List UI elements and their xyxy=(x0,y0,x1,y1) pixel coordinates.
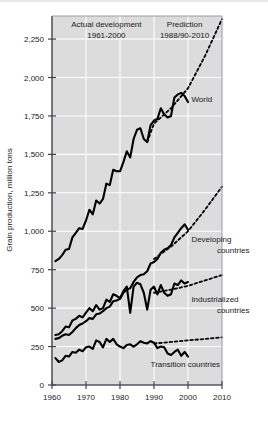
x-tick-label: 1970 xyxy=(77,393,95,402)
grain-production-chart: 02505007501,0001,2501,5001,7502,0002,250… xyxy=(0,0,268,422)
chart-canvas: 02505007501,0001,2501,5001,7502,0002,250… xyxy=(0,0,268,422)
y-tick-label: 1,000 xyxy=(24,227,45,236)
y-tick-label: 2,250 xyxy=(24,35,45,44)
series-label: World xyxy=(191,95,212,104)
y-tick-label: 0 xyxy=(40,381,45,390)
series-label: countries xyxy=(217,246,249,255)
actual-development-line1: Actual development xyxy=(71,20,142,29)
prediction-line1: Prediction xyxy=(167,20,203,29)
prediction-line2: 1988/90-2010 xyxy=(160,31,210,40)
chart-figure: 02505007501,0001,2501,5001,7502,0002,250… xyxy=(0,0,268,422)
y-tick-label: 1,250 xyxy=(24,189,45,198)
y-tick-label: 2,000 xyxy=(24,74,45,83)
y-tick-label: 500 xyxy=(31,304,45,313)
x-tick-label: 1960 xyxy=(43,393,61,402)
series-label: Transition countries xyxy=(151,360,221,369)
actual-development-line2: 1961-2000 xyxy=(87,31,126,40)
y-tick-label: 1,750 xyxy=(24,112,45,121)
series-label: countries xyxy=(217,306,249,315)
x-tick-label: 1980 xyxy=(111,393,129,402)
x-tick-label: 2010 xyxy=(213,393,231,402)
y-tick-label: 250 xyxy=(31,343,45,352)
series-label: Developing xyxy=(191,235,231,244)
y-tick-label: 750 xyxy=(31,266,45,275)
x-tick-label: 1990 xyxy=(145,393,163,402)
series-label: Industrialized xyxy=(191,295,238,304)
y-tick-label: 1,500 xyxy=(24,150,45,159)
y-axis-title: Grain production, million tons xyxy=(5,148,14,252)
x-tick-labels: 196019701980199020002010 xyxy=(43,393,231,402)
y-tick-labels: 02505007501,0001,2501,5001,7502,0002,250 xyxy=(24,35,45,390)
x-tick-label: 2000 xyxy=(179,393,197,402)
